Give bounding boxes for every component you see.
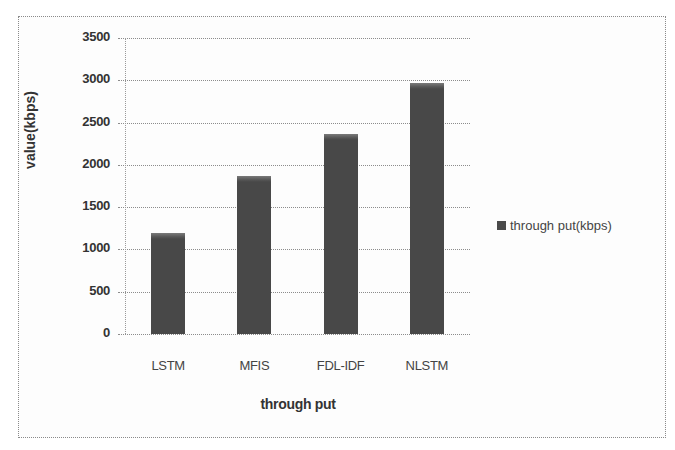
x-category-label: NLSTM — [387, 358, 467, 373]
y-tick-label: 0 — [60, 325, 110, 340]
y-tick-label: 2500 — [60, 114, 110, 129]
y-tick-label: 3500 — [60, 29, 110, 44]
legend-label: through put(kbps) — [510, 218, 612, 233]
y-tick-label: 1500 — [60, 198, 110, 213]
y-tick-label: 500 — [60, 283, 110, 298]
x-category-label: LSTM — [128, 358, 208, 373]
gridline — [118, 38, 470, 39]
bar-fdl-idf — [324, 134, 358, 334]
bar-mfis — [237, 176, 271, 334]
y-axis-title: value(kbps) — [22, 60, 38, 200]
y-tick-label: 3000 — [60, 71, 110, 86]
x-category-label: MFIS — [214, 358, 294, 373]
y-tick-label: 1000 — [60, 240, 110, 255]
gridline — [118, 80, 470, 81]
gridline — [118, 334, 470, 335]
y-tick-label: 2000 — [60, 156, 110, 171]
bar-nlstm — [410, 83, 444, 334]
legend: through put(kbps) — [497, 218, 612, 233]
legend-swatch-icon — [497, 221, 506, 230]
x-axis-title: through put — [218, 396, 378, 412]
bar-lstm — [151, 233, 185, 334]
y-axis-line — [125, 38, 126, 334]
x-category-label: FDL-IDF — [301, 358, 381, 373]
